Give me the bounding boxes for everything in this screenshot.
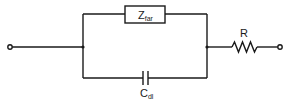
cdl-label: Cdl [140,87,154,100]
circuit-diagram: Zfar Cdl R [0,0,288,103]
zfar-label: Zfar [138,9,154,22]
right-terminal [278,45,282,49]
resistor-symbol [232,42,257,52]
left-terminal [8,45,12,49]
resistor-label: R [240,27,248,39]
